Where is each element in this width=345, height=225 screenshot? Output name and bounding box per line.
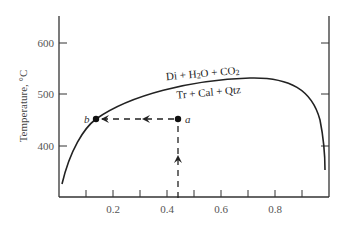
y-tick-600: 600 (38, 37, 55, 49)
upper-field-label: Di + H2O + CO2 (165, 64, 239, 83)
axes (59, 16, 329, 197)
point-a (175, 116, 181, 122)
x-tick-0.4: 0.4 (160, 203, 174, 215)
x-tick-0.8: 0.8 (268, 203, 282, 215)
point-b-label: b (84, 113, 90, 125)
y-tick-400: 400 (38, 140, 55, 152)
y-axis-title: Temperature, °C (17, 70, 29, 143)
point-b (93, 116, 99, 122)
y-tick-500: 500 (38, 88, 55, 100)
dashed-paths (101, 119, 178, 198)
point-a-label: a (185, 113, 191, 125)
x-ticks (86, 190, 302, 197)
x-tick-0.2: 0.2 (106, 203, 120, 215)
phase-diagram-chart: 600 500 400 0.2 0.4 0.6 0.8 Temperature,… (0, 0, 345, 225)
x-tick-0.6: 0.6 (214, 203, 228, 215)
